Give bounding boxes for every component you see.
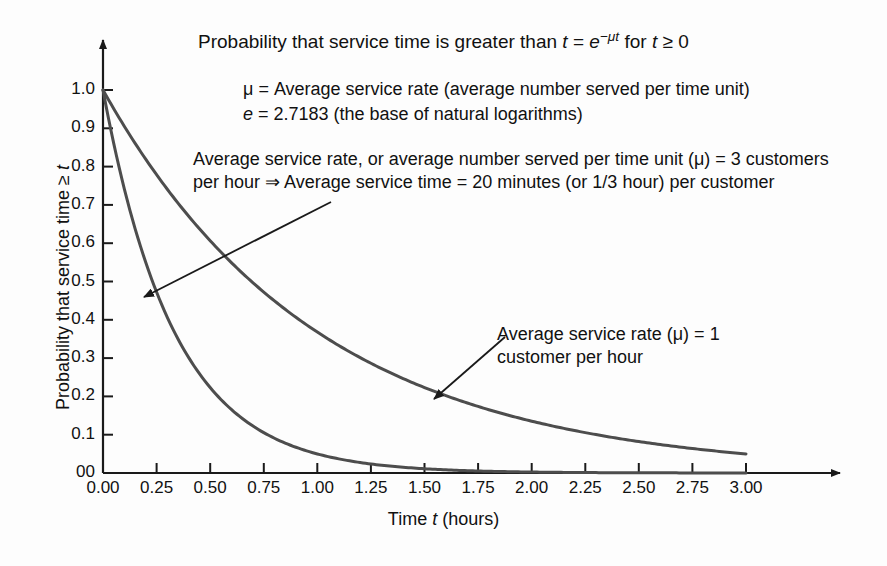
y-axis-ticks <box>103 90 113 473</box>
title-equals: = <box>568 31 590 52</box>
x-tick-label: 1.75 <box>448 478 508 498</box>
definition-e-text: = 2.7183 (the base of natural logarithms… <box>253 104 583 124</box>
x-tick-label: 3.00 <box>716 478 776 498</box>
x-tick-label: 2.75 <box>662 478 722 498</box>
x-tick-label: 0.50 <box>180 478 240 498</box>
x-tick-label: 2.50 <box>609 478 669 498</box>
annotation-mu-3: Average service rate, or average number … <box>193 148 853 194</box>
exponential-service-time-figure: Probability that service time is greater… <box>0 0 887 566</box>
x-axis-tail: (hours) <box>437 509 499 529</box>
annotation-arrow-mu3 <box>144 202 331 297</box>
annotation-mu-1: Average service rate (μ) = 1 customer pe… <box>497 323 797 369</box>
x-axis-title: Time t (hours) <box>0 508 887 531</box>
y-axis-title: Probability that service time ≥ t <box>52 88 75 488</box>
y-axis-var: t <box>53 165 73 170</box>
title-comparison: ≥ 0 <box>657 31 689 52</box>
title-for: for <box>619 31 652 52</box>
definition-mu-symbol: μ <box>243 79 253 99</box>
definition-mu-text: = Average service rate (average number s… <box>253 79 749 99</box>
definitions-block: μ = Average service rate (average number… <box>243 78 750 128</box>
title-exponent: −μt <box>600 29 619 44</box>
x-tick-label: 0.75 <box>234 478 294 498</box>
title-base-e: e <box>589 31 600 52</box>
definition-e: e = 2.7183 (the base of natural logarith… <box>243 103 750 126</box>
definition-e-symbol: e <box>243 104 253 124</box>
x-tick-label: 1.50 <box>395 478 455 498</box>
x-tick-label: 1.00 <box>287 478 347 498</box>
x-tick-label: 2.00 <box>502 478 562 498</box>
title-lead: Probability that service time is greater… <box>198 31 562 52</box>
y-axis-lead: Probability that service time ≥ <box>53 170 73 410</box>
curve-mu-1 <box>103 90 746 454</box>
x-tick-label: 1.25 <box>341 478 401 498</box>
definition-mu: μ = Average service rate (average number… <box>243 78 750 101</box>
x-tick-label: 0.25 <box>127 478 187 498</box>
annotation-arrow-mu1 <box>434 337 505 399</box>
x-tick-label: 2.25 <box>555 478 615 498</box>
chart-title: Probability that service time is greater… <box>198 28 689 55</box>
x-axis-lead: Time <box>388 509 432 529</box>
